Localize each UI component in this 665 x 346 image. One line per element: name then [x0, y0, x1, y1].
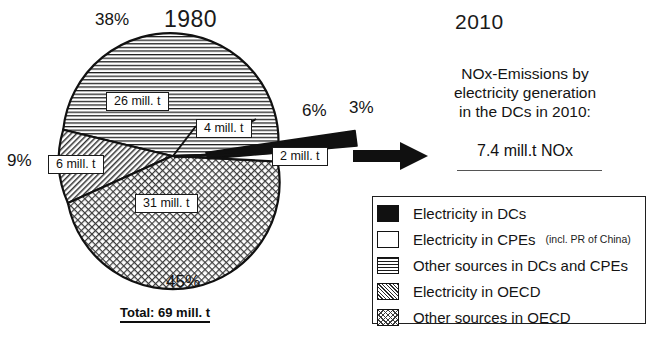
legend-swatch-horizontal-lines-icon: [377, 257, 399, 274]
legend-item-other-oecd: Other sources in OECD: [373, 305, 645, 329]
right-panel-caption-line3: in the DCs in 2010:: [430, 102, 620, 121]
chart-title-1980: 1980: [164, 6, 217, 33]
right-panel-caption-line2: electricity generation: [430, 83, 620, 102]
legend-swatch-diagonal-hatch-icon: [377, 283, 399, 300]
legend-label-electricity-oecd: Electricity in OECD: [413, 283, 541, 300]
percent-label-45: 45%: [166, 272, 200, 292]
percent-label-9: 9%: [7, 151, 32, 171]
value-label-26: 26 mill. t: [106, 92, 169, 111]
value-label-31: 31 mill. t: [135, 194, 198, 213]
value-label-6: 6 mill. t: [48, 155, 104, 174]
legend-label-other-oecd: Other sources in OECD: [413, 309, 571, 326]
right-panel-value: 7.4 mill.t NOx: [430, 142, 620, 160]
legend-item-electricity-oecd: Electricity in OECD: [373, 279, 645, 303]
legend-swatch-white-icon: [377, 231, 399, 248]
legend-swatch-cross-hatch-icon: [377, 309, 399, 326]
legend-swatch-solid-black-icon: [377, 205, 399, 222]
right-panel-caption: NOx-Emissions by electricity generation …: [430, 64, 620, 121]
legend-note-electricity-cpes: (incl. PR of China): [546, 233, 631, 245]
legend: Electricity in DCs Electricity in CPEs (…: [372, 196, 646, 324]
percent-label-3: 3%: [349, 98, 374, 118]
legend-label-electricity-cpes: Electricity in CPEs: [413, 231, 536, 248]
legend-label-electricity-dcs: Electricity in DCs: [413, 205, 526, 222]
chart-title-2010: 2010: [455, 10, 504, 34]
right-panel-caption-line1: NOx-Emissions by: [430, 64, 620, 83]
legend-item-other-dcs-cpes: Other sources in DCs and CPEs: [373, 253, 645, 277]
value-label-4: 4 mill. t: [196, 119, 252, 138]
legend-item-electricity-dcs: Electricity in DCs: [373, 201, 645, 225]
legend-label-other-dcs-cpes: Other sources in DCs and CPEs: [413, 257, 628, 274]
transition-arrow: [353, 142, 428, 170]
legend-item-electricity-cpes: Electricity in CPEs (incl. PR of China): [373, 227, 645, 251]
value-label-2: 2 mill. t: [272, 147, 328, 166]
percent-label-6: 6%: [302, 101, 327, 121]
right-panel-underline: [457, 170, 602, 171]
total-label: Total: 69 mill. t: [120, 305, 210, 323]
percent-label-38: 38%: [95, 10, 129, 30]
